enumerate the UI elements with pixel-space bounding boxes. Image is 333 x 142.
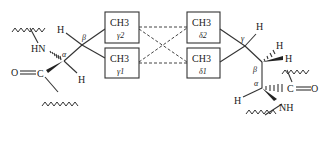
box-delta2: CH3 δ2 <box>187 12 220 43</box>
atom-nh-right: NH <box>279 102 293 113</box>
atom-h-beta1-right: H <box>276 40 283 51</box>
atom-o-left: O <box>11 67 18 78</box>
box-gamma1: CH3 γ1 <box>105 48 139 78</box>
contact-gamma2-delta1 <box>139 29 187 62</box>
box-delta1-label: δ1 <box>199 67 207 76</box>
left-residue: HN O C H H α β <box>11 24 105 106</box>
label-gamma-right: γ <box>241 34 245 43</box>
atom-hn: HN <box>31 43 45 54</box>
atom-h-alpha-left: H <box>78 74 85 85</box>
methyl-contacts <box>139 27 187 63</box>
atom-o-right: O <box>311 83 318 94</box>
wavy-bond-left-bottom <box>42 102 78 106</box>
bond-beta-h <box>66 33 82 45</box>
box-delta2-group: CH3 <box>192 17 211 28</box>
atom-h-alpha-right: H <box>234 95 241 106</box>
right-residue: γ H H H β α C O H NH <box>220 21 318 115</box>
wavy-bond-right-top <box>282 70 309 74</box>
label-alpha-right: α <box>254 79 259 88</box>
bond-beta-gamma1 <box>82 45 105 58</box>
box-gamma1-label: γ1 <box>117 67 124 76</box>
hashed-bond-n-alpha <box>50 51 61 60</box>
bond-c-backbone <box>45 77 58 92</box>
bond-gamma-h <box>245 34 256 46</box>
bond-alpha-h <box>64 61 77 73</box>
box-gamma2: CH3 γ2 <box>105 12 139 43</box>
atom-h-beta-left: H <box>57 24 64 35</box>
atom-h-gamma-right: H <box>256 21 263 32</box>
label-alpha-left: α <box>62 50 67 59</box>
atom-c-right: C <box>287 83 294 94</box>
wedge-bond-beta-h <box>262 56 283 62</box>
box-gamma1-group: CH3 <box>110 53 129 64</box>
methyl-contact-diagram: HN O C H H α β CH3 γ2 CH3 γ1 CH3 δ2 CH3 … <box>0 0 333 142</box>
label-beta-left: β <box>81 33 86 42</box>
box-delta2-label: δ2 <box>199 31 207 40</box>
bond-alpha-h-right <box>243 88 262 97</box>
box-gamma2-group: CH3 <box>110 17 129 28</box>
box-delta1-group: CH3 <box>192 53 211 64</box>
label-beta-right: β <box>252 65 257 74</box>
wedge-bond-alpha-c <box>46 61 63 73</box>
bond-alpha-beta <box>64 45 82 61</box>
atom-h-beta2-right: H <box>285 53 292 64</box>
box-delta1: CH3 δ1 <box>187 48 220 78</box>
hashed-bond-alpha-c <box>266 84 282 92</box>
bond-delta1-gamma <box>220 46 245 62</box>
atom-c-left: C <box>37 68 44 79</box>
wavy-bond-left-top <box>12 28 45 32</box>
bond-gamma-beta <box>245 46 262 62</box>
box-gamma2-label: γ2 <box>117 31 124 40</box>
contact-gamma1-delta2 <box>139 28 187 62</box>
